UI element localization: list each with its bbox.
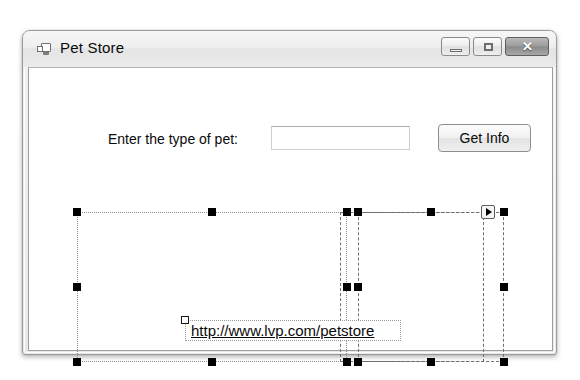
close-icon: ✕ bbox=[506, 38, 548, 55]
monitor-base-shape bbox=[43, 52, 49, 55]
caption-button-group: ✕ bbox=[441, 37, 549, 56]
square-shape bbox=[37, 46, 43, 52]
selection-handle-link-label[interactable] bbox=[181, 316, 189, 324]
smart-tag-button[interactable] bbox=[481, 205, 495, 219]
resize-handle-ne-right[interactable] bbox=[500, 208, 508, 216]
maximize-button[interactable] bbox=[473, 37, 502, 56]
pet-type-label: Enter the type of pet: bbox=[108, 131, 238, 147]
triangle-right-icon bbox=[486, 208, 492, 216]
close-button[interactable]: ✕ bbox=[505, 37, 549, 56]
form-window: Pet Store ✕ Enter the type of pet: Get I… bbox=[22, 30, 557, 355]
resize-handle-s-right[interactable] bbox=[427, 358, 435, 366]
resize-handle-e-right[interactable] bbox=[500, 283, 508, 291]
resize-handle-se-left[interactable] bbox=[343, 358, 351, 366]
designer-surface[interactable]: Enter the type of pet: Get Info bbox=[28, 67, 553, 351]
resize-handle-s-left[interactable] bbox=[208, 358, 216, 366]
form-designer-icon bbox=[37, 42, 52, 56]
resize-handle-w-right[interactable] bbox=[354, 283, 362, 291]
resize-handle-ne-left[interactable] bbox=[343, 208, 351, 216]
resize-handle-se-right[interactable] bbox=[500, 358, 508, 366]
window-title: Pet Store bbox=[60, 39, 124, 56]
pet-type-input[interactable] bbox=[271, 126, 410, 150]
resize-handle-w-left[interactable] bbox=[73, 283, 81, 291]
maximize-icon bbox=[484, 43, 493, 51]
resize-handle-e-left[interactable] bbox=[343, 283, 351, 291]
resize-handle-nw-left[interactable] bbox=[73, 208, 81, 216]
minimize-button[interactable] bbox=[441, 37, 470, 56]
link-label-selection[interactable]: http://www.lvp.com/petstore bbox=[185, 320, 401, 341]
minimize-icon bbox=[450, 49, 462, 52]
resize-handle-sw-left[interactable] bbox=[73, 358, 81, 366]
resize-handle-nw-right[interactable] bbox=[354, 208, 362, 216]
link-label[interactable]: http://www.lvp.com/petstore bbox=[191, 322, 374, 339]
resize-handle-sw-right[interactable] bbox=[354, 358, 362, 366]
resize-handle-n-right[interactable] bbox=[427, 208, 435, 216]
title-bar[interactable]: Pet Store ✕ bbox=[23, 31, 556, 67]
resize-handle-n-left[interactable] bbox=[208, 208, 216, 216]
get-info-button[interactable]: Get Info bbox=[438, 124, 531, 152]
